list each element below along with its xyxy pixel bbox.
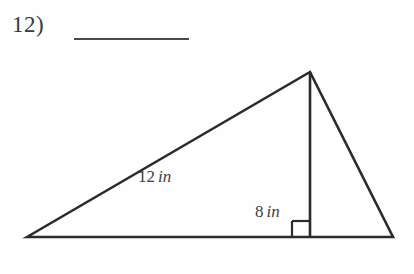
triangle-outline — [27, 72, 393, 237]
triangle-figure: 12in 8in 18in — [0, 55, 414, 255]
label-slant-side: 12in — [138, 167, 171, 187]
label-height-unit: in — [264, 202, 280, 221]
answer-blank-line[interactable] — [74, 35, 189, 40]
label-height: 8in — [255, 202, 280, 222]
triangle-diagram — [0, 55, 414, 255]
worksheet-page: 12) 12in 8in 18in — [0, 0, 414, 274]
label-slant-side-value: 12 — [138, 167, 155, 186]
problem-header: 12) — [12, 10, 402, 46]
label-slant-side-unit: in — [155, 167, 171, 186]
problem-number: 12) — [12, 10, 44, 40]
right-angle-icon — [292, 221, 309, 237]
label-height-value: 8 — [255, 202, 264, 221]
